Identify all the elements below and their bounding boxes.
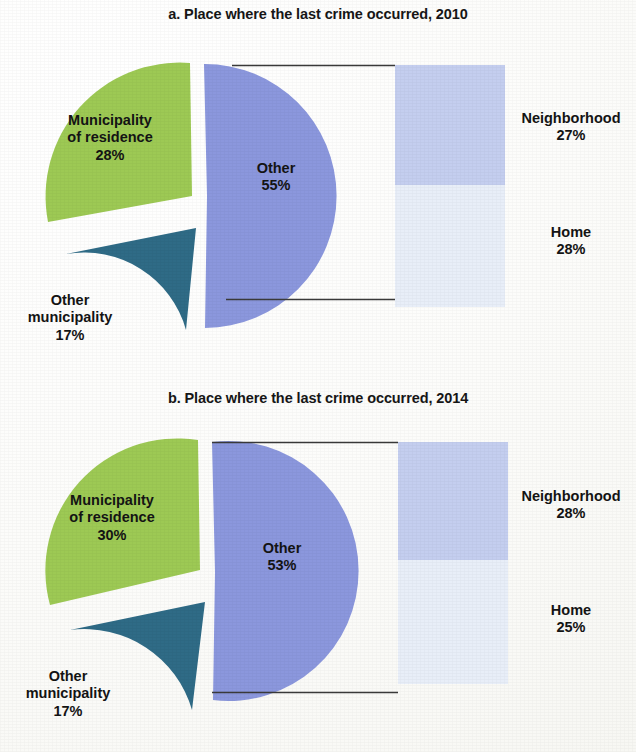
label-home-b: Home 25% <box>510 602 632 637</box>
chart-panel-a: a. Place where the last crime occurred, … <box>0 0 636 380</box>
label-value: 53% <box>234 557 330 574</box>
label-line1: Neighborhood <box>521 110 620 126</box>
slice-other-a[interactable] <box>204 64 337 328</box>
label-line1: Neighborhood <box>521 488 620 504</box>
label-line1: Home <box>551 602 591 618</box>
label-neighborhood-a: Neighborhood 27% <box>510 110 632 145</box>
label-value: 55% <box>228 177 324 194</box>
label-value: 17% <box>5 327 135 344</box>
label-value: 28% <box>40 147 180 164</box>
label-other-b: Other 53% <box>234 540 330 575</box>
breakout-bar-home-b[interactable] <box>398 560 508 684</box>
label-value: 17% <box>2 703 134 720</box>
label-line2: of residence <box>67 129 152 145</box>
label-value: 28% <box>510 241 632 258</box>
label-value: 25% <box>510 619 632 636</box>
label-line2: municipality <box>26 685 111 701</box>
label-value: 28% <box>510 505 632 522</box>
label-line1: Home <box>551 224 591 240</box>
label-other-municipality-b: Other municipality 17% <box>2 668 134 720</box>
label-neighborhood-b: Neighborhood 28% <box>510 488 632 523</box>
label-home-a: Home 28% <box>510 224 632 259</box>
label-other-a: Other 55% <box>228 160 324 195</box>
label-value: 27% <box>510 127 632 144</box>
label-line1: Other <box>49 668 88 684</box>
figure-a: Municipality of residence 28% Other muni… <box>0 0 636 380</box>
chart-panel-b: b. Place where the last crime occurred, … <box>0 380 636 752</box>
label-line1: Municipality <box>70 492 154 508</box>
label-other-municipality-a: Other municipality 17% <box>5 292 135 344</box>
label-municipality-of-residence-b: Municipality of residence 30% <box>42 492 182 544</box>
breakout-bar-neighborhood-b[interactable] <box>398 442 508 560</box>
breakout-bar-home-a[interactable] <box>395 185 505 307</box>
label-municipality-of-residence-a: Municipality of residence 28% <box>40 112 180 164</box>
figure-b: Municipality of residence 30% Other muni… <box>0 380 636 752</box>
label-line1: Municipality <box>68 112 152 128</box>
breakout-bar-neighborhood-a[interactable] <box>395 65 505 185</box>
label-line1: Other <box>257 160 296 176</box>
label-value: 30% <box>42 527 182 544</box>
label-line2: municipality <box>28 309 113 325</box>
label-line1: Other <box>51 292 90 308</box>
label-line1: Other <box>263 540 302 556</box>
label-line2: of residence <box>69 509 154 525</box>
